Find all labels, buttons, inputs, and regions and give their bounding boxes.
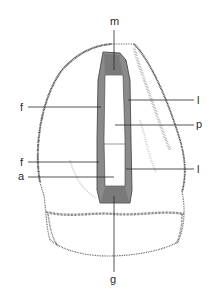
label-l-lower: l bbox=[197, 164, 199, 175]
label-f-lower: f bbox=[20, 157, 23, 168]
label-f-upper: f bbox=[20, 102, 23, 113]
tooth-diagram bbox=[0, 0, 214, 296]
preparation-floor bbox=[104, 75, 125, 186]
label-g: g bbox=[110, 274, 116, 285]
label-a: a bbox=[18, 171, 24, 182]
cavity-preparation bbox=[97, 52, 132, 203]
label-l-upper: l bbox=[197, 95, 199, 106]
label-m: m bbox=[110, 16, 119, 27]
label-p: p bbox=[196, 119, 202, 130]
